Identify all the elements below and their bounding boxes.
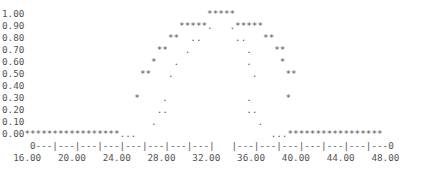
row-0.20: 0.20 .. .. [2,104,24,116]
row-0.30: 0.30 * . . * [2,92,24,104]
row-0.10: 0.10 . . [2,116,24,128]
row-0.00: 0.00*****************... ...************… [2,128,383,140]
row-0.60: 0.60 * . . * [2,56,24,68]
row-0.40: 0.40 [2,80,24,92]
row-0.50: 0.50 ** . . ** [2,68,24,80]
row-0.90: 0.90 *****. .***** [2,20,24,32]
row-0.70: 0.70 ** . . ** [2,44,24,56]
row-1.00: 1.00 ***** [2,8,24,20]
x-axis-line: 0---|---|---|---|---|---|---|---| |---|-… [2,140,394,152]
row-0.80: 0.80 ** .. .. ** [2,32,24,44]
x-axis-labels: 16.00 20.00 24.00 28.00 32.00 36.00 40.0… [2,152,399,164]
ascii-plot: 1.00 ***** 0.90 *****. .***** 0.80 ** ..… [0,0,427,171]
